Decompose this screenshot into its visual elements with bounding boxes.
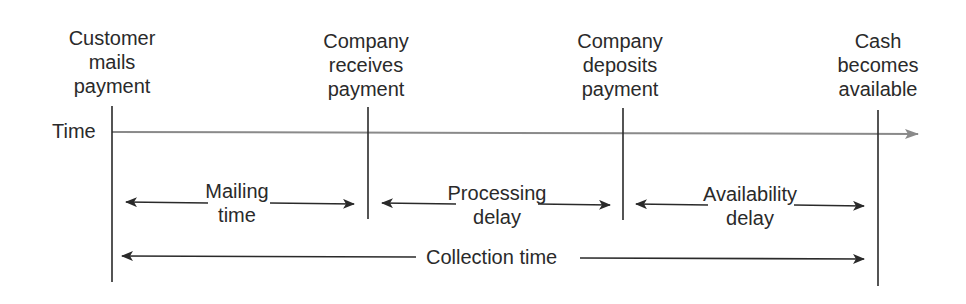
collection-time-arrow-left (122, 256, 416, 257)
time-axis-label: Time (52, 119, 96, 143)
event-label-company-deposits: Company deposits payment (540, 29, 700, 101)
interval-label-processing-delay: Processing delay (427, 181, 567, 229)
event-label-cash-available: Cash becomes available (798, 29, 958, 101)
interval-label-mailing-time: Mailing time (167, 179, 307, 227)
collection-time-arrow-right (580, 258, 864, 259)
event-label-company-receives: Company receives payment (286, 29, 446, 101)
event-label-customer-mails: Customer mails payment (32, 26, 192, 98)
time-axis (112, 132, 918, 134)
interval-label-availability-delay: Availability delay (680, 182, 820, 230)
collection-time-label: Collection time (426, 245, 557, 269)
